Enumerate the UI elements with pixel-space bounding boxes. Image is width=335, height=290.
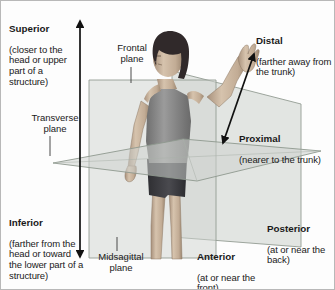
label-inferior: Inferior (farther from the head or towar… xyxy=(9,207,85,290)
label-superior-description: (closer to the head or upper part of a s… xyxy=(9,45,83,87)
label-distal-description: (farther away from the trunk) xyxy=(256,57,334,78)
label-distal: Distal (farther away from the trunk) xyxy=(256,25,334,89)
label-anterior-term: Anterior xyxy=(197,252,277,263)
label-midsagittal-plane: Midsagittal plane xyxy=(85,252,157,273)
label-transverse-plane: Transverse plane xyxy=(15,113,95,134)
label-frontal-plane: Frontal plane xyxy=(101,43,163,64)
label-superior: Superior (closer to the head or upper pa… xyxy=(9,13,83,98)
label-anterior-description: (at or near the front) xyxy=(197,273,277,290)
label-posterior-description: (at or near the back) xyxy=(267,245,335,266)
label-inferior-term: Inferior xyxy=(9,218,85,229)
label-posterior: Posterior (at or near the back) xyxy=(267,213,335,277)
label-anterior: Anterior (at or near the front) xyxy=(197,241,277,290)
label-proximal-description: (nearer to the trunk) xyxy=(239,155,335,166)
label-proximal: Proximal (nearer to the trunk) xyxy=(239,123,335,176)
label-inferior-description: (farther from the head or toward the low… xyxy=(9,239,85,281)
label-posterior-term: Posterior xyxy=(267,224,335,235)
label-proximal-term: Proximal xyxy=(239,134,335,145)
label-superior-term: Superior xyxy=(9,24,83,35)
anatomical-planes-figure: Superior (closer to the head or upper pa… xyxy=(0,0,335,290)
label-distal-term: Distal xyxy=(256,36,334,47)
